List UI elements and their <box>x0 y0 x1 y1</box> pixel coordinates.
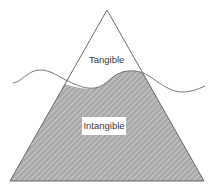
intangible-label-box: Intangible <box>82 117 126 135</box>
tangible-label: Tangible <box>89 55 124 65</box>
intangible-label: Intangible <box>83 121 124 131</box>
iceberg-diagram <box>0 0 215 191</box>
